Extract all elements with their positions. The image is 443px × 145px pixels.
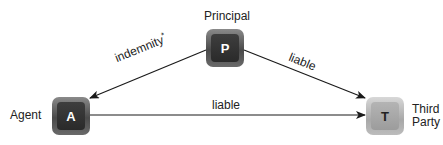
principal-label: Principal xyxy=(204,10,250,23)
edge-principal-agent xyxy=(90,50,206,98)
third-party-node: T xyxy=(366,97,404,135)
edge-label-liable-agent-third: liable xyxy=(212,98,240,112)
agent-node: A xyxy=(52,97,90,135)
third-party-label-line2: Party xyxy=(412,116,440,129)
third-party-label: Third Party xyxy=(412,103,440,129)
agent-letter: A xyxy=(57,102,85,130)
third-party-letter: T xyxy=(371,102,399,130)
agent-label: Agent xyxy=(10,109,41,122)
principal-node: P xyxy=(206,29,244,67)
principal-letter: P xyxy=(211,34,239,62)
